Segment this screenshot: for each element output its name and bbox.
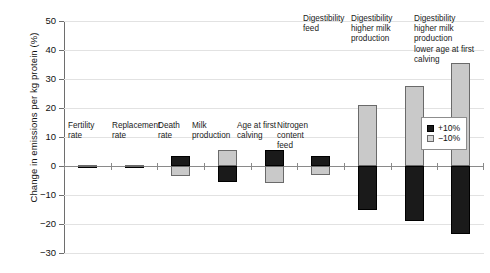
bar-6-minus10 <box>358 105 377 166</box>
bar-8-plus10 <box>451 166 470 234</box>
bar-5-minus10 <box>311 166 330 175</box>
legend-label-plus-10: +10% <box>438 124 460 133</box>
bar-2-minus10 <box>171 166 190 176</box>
bar-chart: Change in emissions per kg protein (%) −… <box>0 0 490 273</box>
category-label-nitrogen-content-feed: Nitrogen content feed <box>277 121 323 152</box>
bar-4-plus10 <box>265 150 284 166</box>
category-label-digestibility-lower-age: Digestibility higher milk production low… <box>414 14 490 65</box>
y-tick-label-50: 50 <box>45 16 56 26</box>
category-label-digestibility-higher-milk: Digestibility higher milk production <box>351 14 415 45</box>
legend-swatch-plus-10-icon <box>427 125 434 132</box>
legend-item-plus-10: +10% <box>427 124 460 133</box>
y-tick-label-20: 20 <box>45 103 56 113</box>
bar-4-minus10 <box>265 166 284 183</box>
bar-2-plus10 <box>171 156 190 166</box>
bar-3-minus10 <box>218 150 237 166</box>
gridline--30 <box>64 253 484 254</box>
bar-5-plus10 <box>311 156 330 166</box>
gridline-30 <box>64 79 484 80</box>
category-label-fertility-rate: Fertility rate <box>68 121 114 141</box>
legend-item-minus-10: −10% <box>427 134 460 143</box>
bar-6-plus10 <box>358 166 377 210</box>
figure-bottom-rule <box>0 262 490 263</box>
y-tick-label--30: −30 <box>40 248 56 258</box>
legend-swatch-minus-10-icon <box>427 135 434 142</box>
y-tick-label-10: 10 <box>45 132 56 142</box>
y-axis-title: Change in emissions per kg protein (%) <box>28 28 39 208</box>
bar-3-plus10 <box>218 166 237 182</box>
gridline--20 <box>64 224 484 225</box>
bar-7-plus10 <box>405 166 424 221</box>
y-tick-label--10: −10 <box>40 190 56 200</box>
legend-label-minus-10: −10% <box>438 134 460 143</box>
legend: +10% −10% <box>421 117 467 150</box>
y-tick-label-0: 0 <box>51 161 56 171</box>
y-tick-label--20: −20 <box>40 219 56 229</box>
bar-0-minus10 <box>78 165 97 167</box>
bar-8-minus10 <box>451 63 470 166</box>
y-tick-label-40: 40 <box>45 45 56 55</box>
bar-1-minus10 <box>125 165 144 167</box>
y-tick-label-30: 30 <box>45 74 56 84</box>
